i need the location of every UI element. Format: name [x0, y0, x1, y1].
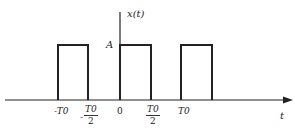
amplitude-label: A [106, 40, 113, 50]
pulse-2 [120, 45, 151, 100]
pulse-1 [58, 45, 88, 100]
tick-neg-T0: -T0 [54, 107, 68, 116]
tick-neg-sign: - [80, 113, 83, 122]
time-axis-arrow-icon [283, 97, 293, 104]
y-axis-label: x(t) [127, 9, 144, 19]
tick-zero: 0 [117, 107, 123, 116]
tick-T0: T0 [178, 107, 190, 116]
tick-half-T0: T0 2 [146, 105, 160, 126]
x-axis-label: t [280, 111, 284, 121]
tick-neg-half-T0: T0 2 [84, 105, 98, 126]
pulse-3 [181, 45, 212, 100]
